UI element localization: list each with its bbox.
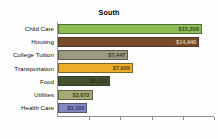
x-axis-tick	[152, 117, 153, 120]
bar-value-label: $15,208	[58, 24, 199, 34]
x-axis-tick	[89, 117, 90, 120]
bar-value-label: $3,672	[58, 90, 90, 100]
bar-value-label: $3,105	[58, 103, 84, 113]
bar-row: Transportation$7,929	[0, 62, 218, 75]
x-axis-tick	[214, 117, 215, 120]
bar-row: Child Care$15,208	[0, 22, 218, 35]
bar-value-label: $7,929	[58, 63, 130, 73]
bar-row: Food$5,510	[0, 75, 218, 88]
bar-value-label: $5,510	[58, 76, 107, 86]
category-label: Food	[0, 75, 54, 88]
x-axis-tick	[183, 117, 184, 120]
category-label: Child Care	[0, 22, 54, 35]
bar-value-label: $14,940	[58, 37, 196, 47]
x-axis-tick	[120, 117, 121, 120]
bar-row: Housing$14,940	[0, 35, 218, 48]
bar-chart: South Child Care$15,208Housing$14,940Col…	[0, 0, 218, 139]
category-label: Housing	[0, 35, 54, 48]
category-label: Transportation	[0, 62, 54, 75]
x-axis-line	[57, 116, 214, 117]
category-label: Utilities	[0, 88, 54, 101]
bar-row: Health Care$3,105	[0, 101, 218, 114]
bar-value-label: $7,447	[58, 50, 125, 60]
bar-row: Utilities$3,672	[0, 88, 218, 101]
category-label: College Tuition	[0, 48, 54, 61]
category-label: Health Care	[0, 101, 54, 114]
chart-title: South	[0, 9, 218, 17]
bar-row: College Tuition$7,447	[0, 48, 218, 61]
